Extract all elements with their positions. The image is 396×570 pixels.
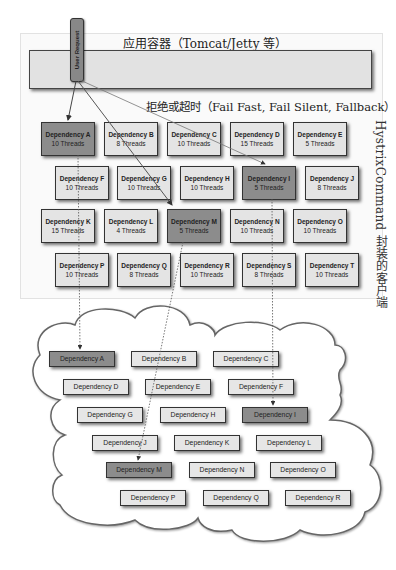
cloud-dependency-d: Dependency D bbox=[63, 379, 129, 395]
cloud-dependency-i: Dependency I bbox=[242, 407, 308, 423]
cloud-dependency-g: Dependency G bbox=[77, 407, 143, 423]
cloud-dependency-j: Dependency J bbox=[92, 435, 158, 451]
cloud-dependency-e: Dependency E bbox=[145, 379, 211, 395]
cloud-dependency-q: Dependency Q bbox=[203, 490, 269, 506]
cloud-dependency-l: Dependency L bbox=[256, 435, 322, 451]
cloud-dependency-p: Dependency P bbox=[120, 490, 186, 506]
cloud-dependency-n: Dependency N bbox=[189, 462, 255, 478]
cloud-dependency-a: Dependency A bbox=[49, 351, 115, 367]
cloud-dependency-f: Dependency F bbox=[228, 379, 294, 395]
cloud-dependency-h: Dependency H bbox=[160, 407, 226, 423]
cloud-dependency-b: Dependency B bbox=[131, 351, 197, 367]
cloud-dependency-k: Dependency K bbox=[174, 435, 240, 451]
dependency-cloud bbox=[0, 0, 396, 570]
cloud-dependency-o: Dependency O bbox=[270, 462, 336, 478]
cloud-dependency-c: Dependency C bbox=[213, 351, 279, 367]
cloud-dependency-m: Dependency M bbox=[106, 462, 172, 478]
cloud-dependency-r: Dependency R bbox=[285, 490, 351, 506]
